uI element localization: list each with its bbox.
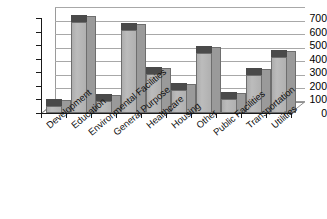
y-tick-label-100: 100 (291, 94, 327, 104)
y-tick-label-400: 400 (291, 54, 327, 64)
y-tick-label-500: 500 (291, 40, 327, 50)
y-tick-label-300: 300 (291, 67, 327, 77)
bar-top-face (71, 15, 87, 22)
bar-top-face (196, 46, 212, 53)
bar-chart: 7006005004003002001000 DevelopmentEducat… (0, 0, 327, 219)
y-tick-label-700: 700 (291, 13, 327, 23)
bar-top-face (171, 83, 187, 90)
bar-side-face (212, 47, 221, 113)
bar-top-face (246, 68, 262, 75)
bar-top-face (271, 50, 287, 57)
bar-top-face (46, 99, 62, 106)
gridline-700 (55, 7, 305, 8)
x-tick-0 (41, 113, 42, 118)
y-axis-line (41, 18, 42, 113)
bar-top-face (121, 23, 137, 30)
y-tick-label-600: 600 (291, 27, 327, 37)
y-tick-label-200: 200 (291, 81, 327, 91)
plot-area: 7006005004003002001000 DevelopmentEducat… (0, 0, 327, 219)
bar-top-face (221, 92, 237, 99)
